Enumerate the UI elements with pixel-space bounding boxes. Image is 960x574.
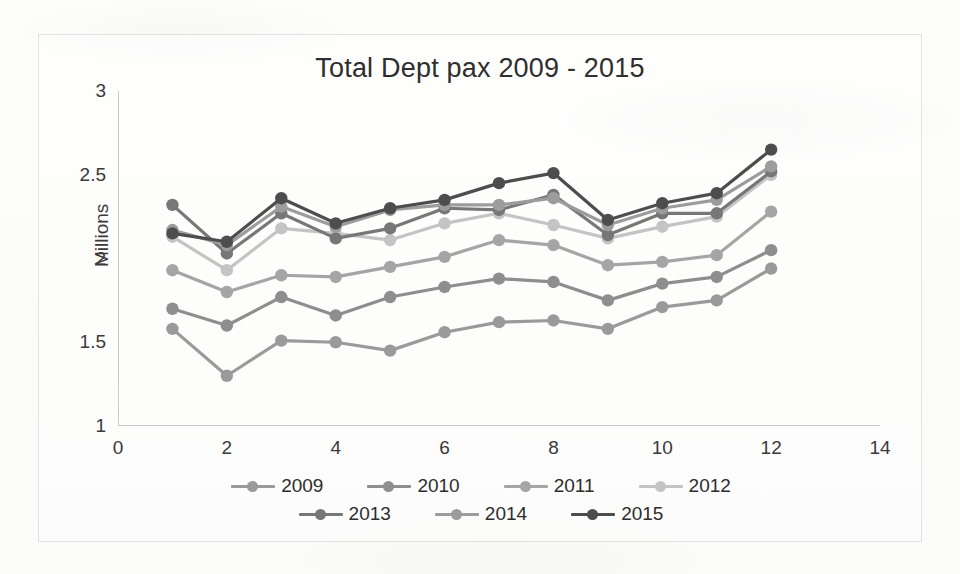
x-tick-label: 4 <box>330 437 341 459</box>
legend-item-2013[interactable]: 2013 <box>299 503 391 525</box>
data-point <box>384 222 396 234</box>
y-axis-title: Millions <box>91 204 113 267</box>
data-point <box>438 217 450 229</box>
data-point <box>711 271 723 283</box>
chart-legend: 2009201020112012201320142015 <box>39 475 923 531</box>
data-point <box>547 314 559 326</box>
legend-label: 2010 <box>417 475 459 497</box>
legend-swatch-icon <box>639 478 683 494</box>
data-point <box>493 177 505 189</box>
data-point <box>384 291 396 303</box>
data-point <box>221 264 233 276</box>
data-point <box>384 202 396 214</box>
data-point <box>765 160 777 172</box>
data-point <box>656 277 668 289</box>
legend-swatch-icon <box>435 506 479 522</box>
data-point <box>765 143 777 155</box>
series-2014 <box>166 160 777 251</box>
data-point <box>711 207 723 219</box>
y-tick-label: 2.5 <box>80 164 106 186</box>
x-tick-label: 0 <box>113 437 124 459</box>
series-line <box>172 250 771 325</box>
data-point <box>384 261 396 273</box>
data-point <box>493 272 505 284</box>
data-point <box>384 234 396 246</box>
legend-swatch-icon <box>571 506 615 522</box>
series-line <box>172 269 771 376</box>
data-point <box>330 232 342 244</box>
data-point <box>330 271 342 283</box>
data-point <box>602 294 614 306</box>
legend-label: 2014 <box>485 503 527 525</box>
data-point <box>711 294 723 306</box>
data-point <box>330 217 342 229</box>
legend-label: 2013 <box>349 503 391 525</box>
data-point <box>656 256 668 268</box>
legend-swatch-icon <box>231 478 275 494</box>
series-line <box>172 175 771 270</box>
data-point <box>221 236 233 248</box>
data-point <box>166 264 178 276</box>
y-tick-label: 1 <box>95 415 106 437</box>
legend-label: 2009 <box>281 475 323 497</box>
data-point <box>221 286 233 298</box>
data-point <box>384 344 396 356</box>
data-point <box>547 192 559 204</box>
legend-row-1: 2009201020112012 <box>39 475 923 497</box>
data-point <box>656 197 668 209</box>
data-point <box>765 205 777 217</box>
data-point <box>330 336 342 348</box>
data-point <box>493 316 505 328</box>
legend-item-2010[interactable]: 2010 <box>367 475 459 497</box>
legend-item-2012[interactable]: 2012 <box>639 475 731 497</box>
data-point <box>602 323 614 335</box>
data-point <box>275 222 287 234</box>
data-point <box>547 167 559 179</box>
data-point <box>221 319 233 331</box>
data-point <box>656 220 668 232</box>
legend-item-2009[interactable]: 2009 <box>231 475 323 497</box>
legend-item-2011[interactable]: 2011 <box>504 475 595 497</box>
legend-swatch-icon <box>299 506 343 522</box>
x-tick-label: 8 <box>548 437 559 459</box>
legend-row-2: 201320142015 <box>39 503 923 525</box>
data-point <box>547 219 559 231</box>
data-point <box>275 192 287 204</box>
x-tick-label: 14 <box>869 437 890 459</box>
legend-item-2014[interactable]: 2014 <box>435 503 527 525</box>
plot-area: 11.522.53 02468101214 <box>118 91 880 426</box>
data-point <box>602 259 614 271</box>
data-point <box>765 244 777 256</box>
x-tick-label: 10 <box>652 437 673 459</box>
x-tick-label: 6 <box>439 437 450 459</box>
legend-label: 2015 <box>621 503 663 525</box>
data-point <box>438 251 450 263</box>
data-point <box>656 301 668 313</box>
data-point <box>547 239 559 251</box>
data-point <box>438 194 450 206</box>
legend-item-2015[interactable]: 2015 <box>571 503 663 525</box>
data-point <box>166 303 178 315</box>
x-tick-label: 12 <box>761 437 782 459</box>
data-point <box>438 326 450 338</box>
legend-label: 2011 <box>554 475 595 497</box>
data-point <box>711 249 723 261</box>
data-point <box>275 291 287 303</box>
data-point <box>493 234 505 246</box>
data-point <box>765 262 777 274</box>
chart-frame: Total Dept pax 2009 - 2015 Millions 11.5… <box>38 34 922 542</box>
series-2010 <box>166 244 777 332</box>
data-point <box>438 281 450 293</box>
data-point <box>602 214 614 226</box>
data-point <box>275 269 287 281</box>
series-line <box>172 166 771 245</box>
legend-swatch-icon <box>504 478 548 494</box>
data-point <box>166 199 178 211</box>
data-point <box>711 187 723 199</box>
data-point <box>547 276 559 288</box>
chart-series-plot <box>118 91 880 426</box>
data-point <box>330 309 342 321</box>
legend-label: 2012 <box>689 475 731 497</box>
legend-swatch-icon <box>367 478 411 494</box>
chart-title: Total Dept pax 2009 - 2015 <box>39 53 921 84</box>
